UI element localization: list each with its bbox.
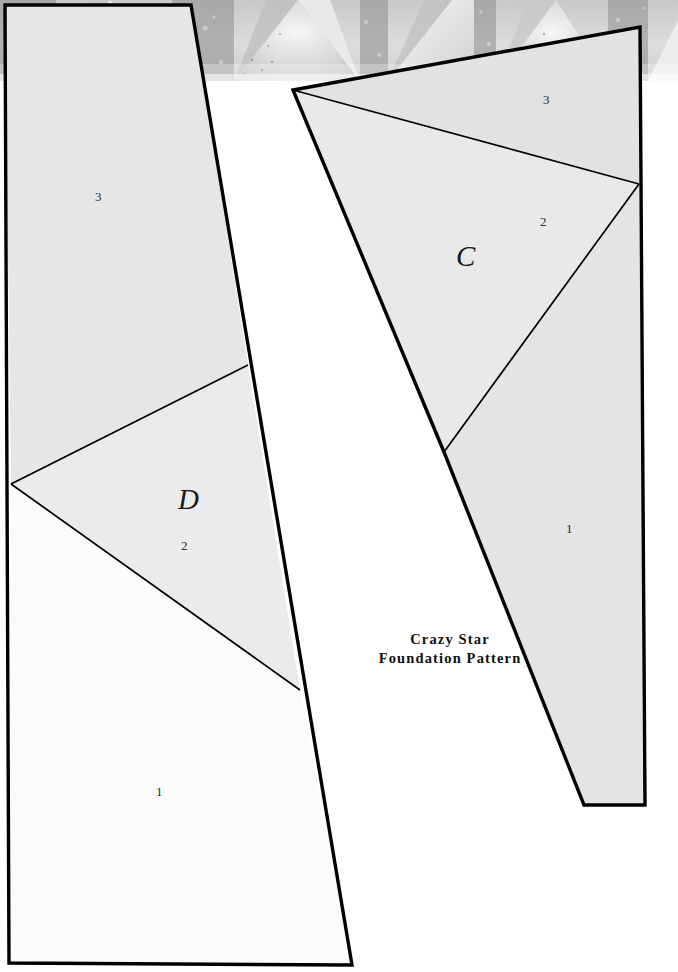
pattern-C-region-3-number: 3 (543, 93, 550, 106)
pattern-page: D 3 2 1 C 3 2 1 Crazy Star Foundation Pa… (0, 0, 678, 972)
pattern-title: Crazy Star Foundation Pattern (355, 630, 545, 668)
pattern-C-region-1-number: 1 (566, 522, 573, 535)
pattern-C-letter-label: C (456, 242, 475, 271)
pattern-D-region-2-number: 2 (181, 539, 188, 552)
pattern-piece-C[interactable] (293, 27, 645, 805)
pattern-title-line-2: Foundation Pattern (355, 649, 545, 668)
pattern-title-line-1: Crazy Star (355, 630, 545, 649)
pattern-D-region-3-number: 3 (95, 190, 102, 203)
pattern-D-letter-label: D (178, 485, 199, 514)
pattern-D-region-1-number: 1 (156, 785, 163, 798)
foundation-pattern-drawing (0, 0, 678, 972)
pattern-C-region-2-number: 2 (540, 215, 547, 228)
